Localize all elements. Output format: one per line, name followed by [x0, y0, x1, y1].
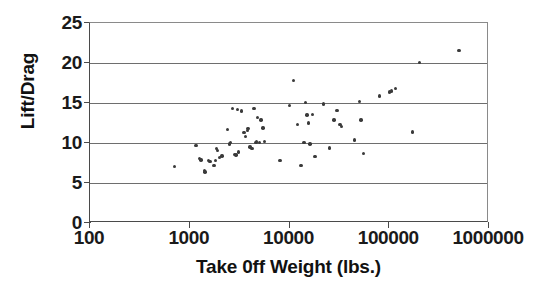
- y-axis-tick-label: 20: [48, 53, 82, 72]
- data-point: [212, 164, 215, 167]
- data-point: [226, 128, 229, 131]
- data-point: [457, 49, 460, 52]
- data-point: [313, 155, 316, 158]
- data-point: [231, 107, 234, 110]
- data-point: [237, 150, 240, 153]
- data-point: [229, 141, 232, 144]
- y-axis-tick-label: 25: [48, 13, 82, 32]
- data-point: [358, 100, 361, 103]
- data-point: [353, 138, 356, 141]
- data-point: [418, 61, 421, 64]
- data-point: [258, 141, 261, 144]
- data-point: [199, 158, 202, 161]
- data-point: [246, 127, 249, 130]
- data-point: [378, 94, 381, 97]
- data-point: [296, 123, 299, 126]
- data-point: [305, 113, 308, 116]
- x-axis-title: Take 0ff Weight (lbs.): [89, 256, 488, 278]
- x-axis-tick-label: 1000000: [423, 228, 537, 247]
- data-point: [328, 146, 331, 149]
- data-point: [299, 164, 302, 167]
- data-point: [292, 79, 295, 82]
- data-point: [194, 144, 197, 147]
- gridline-horizontal: [90, 63, 487, 64]
- data-point: [236, 108, 239, 111]
- data-point: [208, 160, 211, 163]
- data-point: [214, 159, 217, 162]
- data-point: [173, 165, 176, 168]
- x-axis-tick-mark: [89, 222, 90, 228]
- y-axis-tick-label: 5: [48, 173, 82, 192]
- gridline-horizontal: [90, 143, 487, 144]
- y-axis-ticks: 0510152025: [40, 22, 82, 222]
- x-axis-tick-mark: [289, 222, 290, 228]
- data-point: [311, 113, 314, 116]
- data-point: [242, 131, 245, 134]
- data-point: [322, 102, 325, 105]
- data-point: [340, 125, 343, 128]
- plot-area: [89, 22, 488, 222]
- data-point: [411, 130, 414, 133]
- data-point: [240, 109, 243, 112]
- data-point: [220, 154, 223, 157]
- data-point: [261, 126, 264, 129]
- y-axis-tick-label: 15: [48, 93, 82, 112]
- y-axis-title: Lift/Drag: [17, 11, 39, 171]
- data-point: [302, 141, 305, 144]
- data-point: [335, 109, 338, 112]
- x-axis-tick-mark: [388, 222, 389, 228]
- data-point: [307, 121, 310, 124]
- scatter-chart: 0510152025 Lift/Drag Take 0ff Weight (lb…: [0, 0, 537, 300]
- data-point: [250, 147, 253, 150]
- gridline-horizontal: [90, 183, 487, 184]
- data-point: [203, 170, 206, 173]
- data-point: [359, 118, 362, 121]
- data-point: [362, 152, 365, 155]
- data-point: [252, 107, 255, 110]
- data-point: [332, 118, 335, 121]
- data-point: [216, 149, 219, 152]
- data-point: [288, 104, 291, 107]
- x-axis-tick-mark: [488, 222, 489, 228]
- data-point: [278, 159, 281, 162]
- data-point: [244, 135, 247, 138]
- data-point: [394, 87, 397, 90]
- data-point: [390, 89, 393, 92]
- data-point: [308, 142, 311, 145]
- data-point: [259, 118, 262, 121]
- y-axis-tick-label: 10: [48, 133, 82, 152]
- x-axis-tick-mark: [189, 222, 190, 228]
- data-point: [234, 153, 237, 156]
